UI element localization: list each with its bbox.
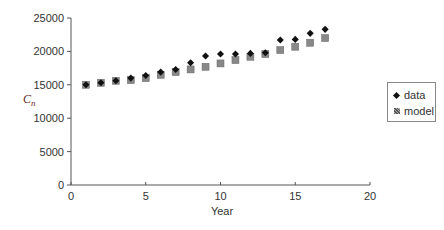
model-point-square [307,39,314,46]
y-tick-label: 10000 [33,112,64,124]
x-tick-label: 15 [289,190,301,202]
y-tick-label: 15000 [33,79,64,91]
hatched-square-marker-icon [392,108,401,114]
data-point-diamond [307,30,314,37]
model-point-square [187,66,194,73]
data-point-diamond [322,26,329,33]
model-point-square [232,57,239,64]
data-point-diamond [202,53,209,60]
model-point-square [277,47,284,54]
legend: data model [387,82,436,122]
legend-label: data [404,89,425,101]
model-point-square [322,35,329,42]
data-point-diamond [277,37,284,44]
data-point-diamond [292,36,299,43]
y-tick-label: 0 [58,179,64,191]
data-point-diamond [187,59,194,66]
legend-item-data: data [392,87,435,103]
diamond-marker-icon [392,93,401,98]
y-tick-label: 5000 [40,146,64,158]
x-tick-label: 5 [143,190,149,202]
x-tick-label: 0 [68,190,74,202]
legend-label: model [404,105,434,117]
data-point-diamond [217,51,224,58]
scatter-chart: 0500010000150002000025000 05101520 Year … [0,0,444,230]
y-tick-label: 20000 [33,45,64,57]
legend-item-model: model [392,103,435,119]
model-point-square [217,60,224,67]
data-points [82,26,328,89]
model-point-square [202,63,209,70]
y-axis-title: Cn [23,92,36,108]
x-tick-label: 20 [364,190,376,202]
y-axis-ticks: 0500010000150002000025000 [33,12,71,191]
y-tick-label: 25000 [33,12,64,24]
x-axis-title: Year [211,205,234,217]
model-point-square [292,43,299,50]
x-tick-label: 10 [214,190,226,202]
